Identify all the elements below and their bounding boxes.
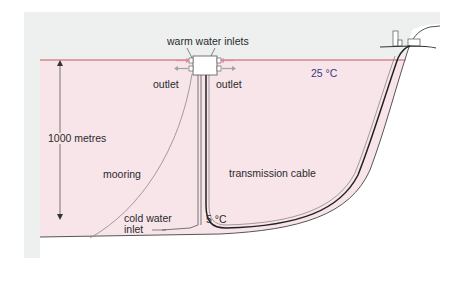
mooring-label: mooring [103,169,141,180]
cold-water-inlet-label-line2: inlet [124,224,143,235]
depth-label: 1000 metres [48,133,106,144]
warm-water-inlets-label: warm water inlets [167,36,249,47]
floating-plant-icon [189,56,221,75]
outlet-left-label: outlet [153,79,179,90]
transmission-cable-label: transmission cable [229,168,316,179]
surface-temperature-label: 25 °C [311,68,337,79]
outlet-right-label: outlet [216,79,242,90]
deep-temperature-label: 5 °C [206,214,227,225]
